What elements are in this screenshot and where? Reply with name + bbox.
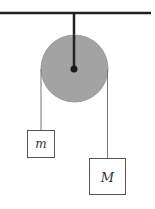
small-mass-label: m: [35, 137, 46, 151]
atwood-machine-diagram: m M: [0, 0, 155, 209]
pulley-axle: [71, 66, 78, 73]
large-mass-label: M: [100, 170, 115, 185]
